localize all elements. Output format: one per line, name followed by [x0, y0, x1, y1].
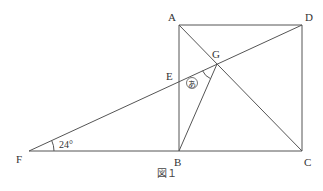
- angle-f-value: 24°: [59, 139, 73, 150]
- angle-unknown-label: あ: [188, 80, 196, 89]
- angle-arc-g: [203, 71, 211, 79]
- label-c: C: [304, 156, 311, 168]
- angle-arc-f: [52, 141, 54, 152]
- label-a: A: [168, 11, 176, 23]
- segment-bg: [179, 64, 217, 151]
- label-d: D: [305, 11, 313, 23]
- label-g: G: [212, 48, 220, 60]
- label-f: F: [16, 153, 22, 165]
- figure-caption: 図１: [157, 168, 177, 179]
- label-b: B: [174, 156, 181, 168]
- label-e: E: [166, 70, 173, 82]
- line-fd: [29, 25, 302, 151]
- diagonal-ac: [179, 25, 302, 151]
- geometry-figure: A D G E F B C 24° あ 図１: [0, 0, 323, 191]
